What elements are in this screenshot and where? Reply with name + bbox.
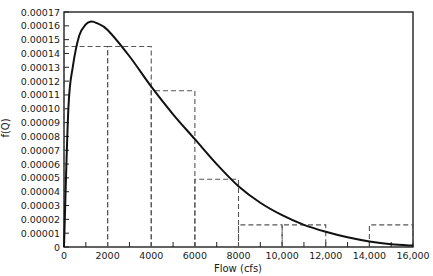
y-tick-label: 0.00003 bbox=[21, 200, 60, 211]
x-tick-label: 8000 bbox=[226, 250, 250, 261]
histogram-bar bbox=[195, 179, 239, 247]
x-tick-label: 2000 bbox=[96, 250, 120, 261]
y-tick-label: 0.00007 bbox=[21, 145, 60, 156]
x-tick-label: 16,000 bbox=[396, 250, 429, 261]
plot-border bbox=[64, 12, 413, 247]
y-tick-label: 0.00015 bbox=[21, 34, 60, 45]
plot-frame bbox=[64, 12, 413, 247]
x-tick-label: 14,000 bbox=[353, 250, 386, 261]
x-tick-label: 6000 bbox=[183, 250, 207, 261]
x-tick-label: 0 bbox=[61, 250, 67, 261]
x-axis-title: Flow (cfs) bbox=[214, 263, 262, 274]
x-tick-label: 10,000 bbox=[266, 250, 299, 261]
x-axis: 0200040006000800010,00012,00014,00016,00… bbox=[61, 242, 430, 261]
y-tick-label: 0.00011 bbox=[21, 89, 60, 100]
x-tick-label: 4000 bbox=[139, 250, 163, 261]
y-tick-label: 0.00001 bbox=[21, 228, 60, 239]
histogram-bars bbox=[64, 47, 413, 247]
y-tick-label: 0.00009 bbox=[21, 117, 60, 128]
chart: 00.000010.000020.000030.000040.000050.00… bbox=[0, 0, 433, 276]
y-tick-label: 0.00010 bbox=[21, 103, 60, 114]
y-tick-label: 0.00006 bbox=[21, 159, 60, 170]
y-tick-label: 0.00004 bbox=[21, 186, 60, 197]
y-tick-label: 0.00014 bbox=[21, 48, 60, 59]
y-tick-label: 0.00005 bbox=[21, 172, 60, 183]
y-tick-label: 0.00017 bbox=[21, 7, 60, 18]
y-tick-label: 0.00016 bbox=[21, 20, 60, 31]
x-tick-label: 12,000 bbox=[309, 250, 342, 261]
y-tick-label: 0 bbox=[54, 242, 60, 253]
y-axis: 00.000010.000020.000030.000040.000050.00… bbox=[21, 7, 69, 253]
y-tick-label: 0.00008 bbox=[21, 131, 60, 142]
y-tick-label: 0.00013 bbox=[21, 62, 60, 73]
y-axis-title: f(Q) bbox=[0, 118, 11, 137]
y-tick-label: 0.00012 bbox=[21, 76, 60, 87]
y-tick-label: 0.00002 bbox=[21, 214, 60, 225]
